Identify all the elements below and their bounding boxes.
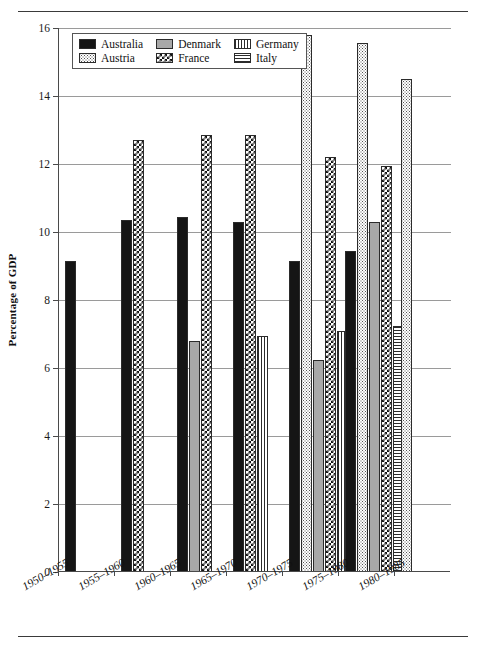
bar-australia-1950-1955 (65, 261, 76, 572)
bar-france-1960-1965 (201, 135, 212, 572)
legend-label: France (178, 52, 209, 64)
legend-item-italy: Italy (234, 52, 299, 64)
y-tick-mark (53, 232, 59, 233)
legend-swatch-australia-icon (79, 39, 96, 49)
legend-item-australia: Australia (79, 38, 143, 50)
bar-australia-1955-1960 (121, 220, 132, 572)
bar-austria-1975-1980 (357, 43, 368, 572)
bar-australia-1970-1975 (289, 261, 300, 572)
y-tick-mark (53, 504, 59, 505)
legend-label: Australia (101, 38, 143, 50)
bar-france-1955-1960 (133, 140, 144, 572)
legend-swatch-italy-icon (234, 53, 251, 63)
plot-area: 0246810121416 (58, 28, 450, 572)
y-tick-label: 10 (39, 226, 51, 238)
legend-swatch-germany-icon (234, 39, 251, 49)
bar-denmark-1970-1975 (313, 360, 324, 573)
y-tick-mark (53, 436, 59, 437)
legend-item-france: France (156, 52, 221, 64)
bar-france-1970-1975 (325, 157, 336, 572)
y-tick-label: 16 (39, 22, 51, 34)
y-tick-mark (53, 300, 59, 301)
bar-austria-1980-1985 (401, 79, 412, 572)
legend-item-denmark: Denmark (156, 38, 221, 50)
legend-label: Denmark (178, 38, 221, 50)
y-tick-mark (53, 28, 59, 29)
y-tick-label: 8 (44, 294, 50, 306)
y-axis-title: Percentage of GDP (6, 254, 18, 347)
legend-label: Germany (256, 38, 299, 50)
y-tick-label: 12 (39, 158, 51, 170)
y-tick-label: 6 (44, 362, 50, 374)
legend-label: Austria (101, 52, 135, 64)
legend-swatch-denmark-icon (156, 39, 173, 49)
legend-label: Italy (256, 52, 277, 64)
y-tick-mark (53, 96, 59, 97)
legend-item-austria: Austria (79, 52, 143, 64)
gridline (59, 96, 451, 97)
bar-france-1975-1980 (381, 166, 392, 572)
bar-austria-1970-1975 (301, 35, 312, 572)
chart-page: Percentage of GDP 0246810121416 1950–195… (0, 0, 486, 649)
bar-germany-1965-1970 (257, 336, 268, 572)
y-tick-label: 2 (44, 498, 50, 510)
top-rule (18, 11, 468, 12)
bar-australia-1965-1970 (233, 222, 244, 572)
legend-swatch-france-icon (156, 53, 173, 63)
bar-denmark-1960-1965 (189, 341, 200, 572)
bottom-rule (18, 636, 468, 637)
bar-denmark-1975-1980 (369, 222, 380, 572)
y-tick-mark (53, 368, 59, 369)
bar-france-1965-1970 (245, 135, 256, 572)
gridline (59, 28, 451, 29)
x-tick-label: 1950–1955 (20, 556, 71, 592)
legend-item-germany: Germany (234, 38, 299, 50)
bar-australia-1960-1965 (177, 217, 188, 572)
y-tick-label: 14 (39, 90, 51, 102)
legend: AustraliaDenmarkGermanyAustriaFranceItal… (72, 33, 307, 69)
y-tick-mark (53, 164, 59, 165)
legend-swatch-austria-icon (79, 53, 96, 63)
y-tick-label: 4 (44, 430, 50, 442)
bar-australia-1975-1980 (345, 251, 356, 572)
